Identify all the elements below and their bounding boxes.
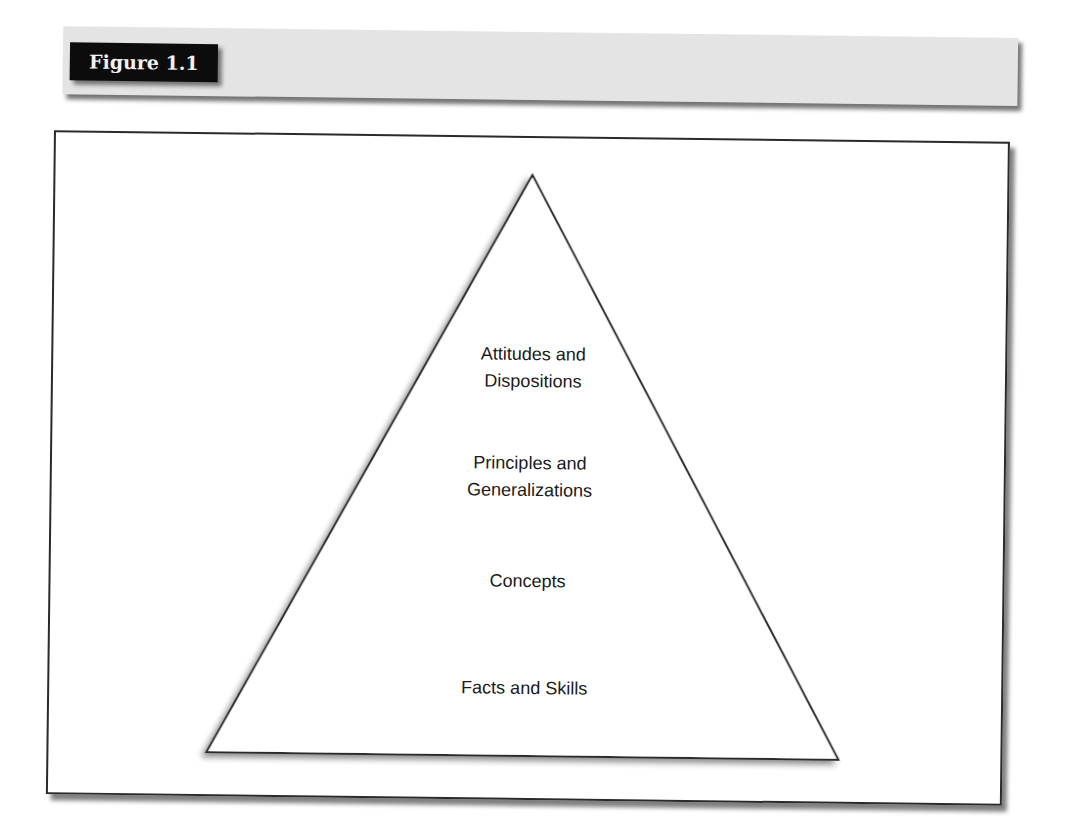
pyramid-diagram <box>0 0 1067 840</box>
pyramid-level-concepts: Concepts <box>407 567 647 597</box>
level-text: Facts and Skills <box>404 673 644 703</box>
level-text: Concepts <box>407 567 647 597</box>
figure-page: Figure 1.1 Attitudes and Dispositions Pr… <box>0 0 1067 840</box>
pyramid-level-facts: Facts and Skills <box>404 673 644 703</box>
pyramid-level-attitudes: Attitudes and Dispositions <box>413 340 654 397</box>
level-text: Principles and <box>410 449 650 479</box>
level-text: Attitudes and <box>413 340 653 370</box>
pyramid-level-principles: Principles and Generalizations <box>409 449 650 506</box>
level-text: Generalizations <box>409 476 649 506</box>
level-text: Dispositions <box>413 367 653 397</box>
